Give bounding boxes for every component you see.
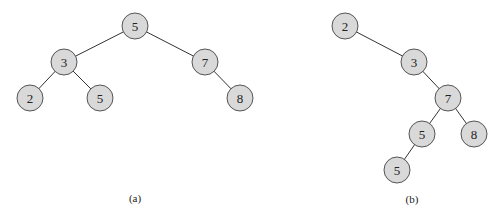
node-label: 5 [132,19,139,34]
node-label: 5 [97,91,104,106]
binary-tree-diagram: 537258(a) 237585(b) [0,0,501,214]
node-label: 5 [419,127,426,142]
node-label: 2 [342,19,349,34]
node-label: 7 [202,55,209,70]
node-label: 3 [411,55,418,70]
node-label: 8 [237,91,244,106]
node-label: 7 [445,91,452,106]
tree-b: 237585(b) [332,13,487,206]
subfigure-caption: (a) [129,192,142,205]
subfigure-caption: (b) [406,193,419,206]
node-label: 8 [471,127,478,142]
node-label: 5 [394,163,401,178]
tree-a: 537258(a) [17,13,253,205]
node-label: 3 [61,55,68,70]
node-label: 2 [27,91,34,106]
